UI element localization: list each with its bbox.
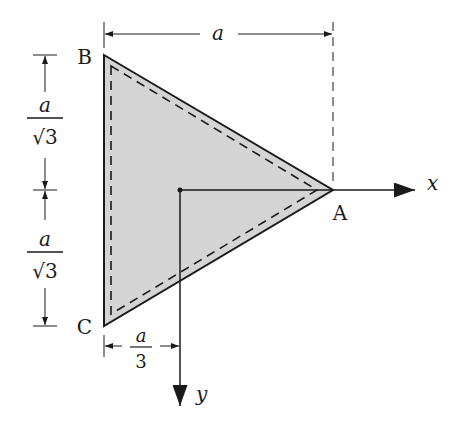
centroid-point [178,188,183,193]
upper-height-denominator: √3 [32,125,57,149]
width-dim-label: a [212,21,224,45]
triangle-diagram: a a √3 a √3 a 3 B C A x y [0,0,459,433]
lower-height-denominator: √3 [32,259,57,283]
y-axis-label: y [195,382,208,406]
x-axis-label: x [427,171,438,195]
lower-height-numerator: a [39,227,51,251]
vertex-label-b: B [77,45,92,69]
offset-numerator: a [136,325,147,346]
offset-denominator: 3 [135,351,146,372]
upper-height-numerator: a [39,93,51,117]
vertex-label-c: C [77,315,92,339]
vertex-label-a: A [332,201,348,225]
